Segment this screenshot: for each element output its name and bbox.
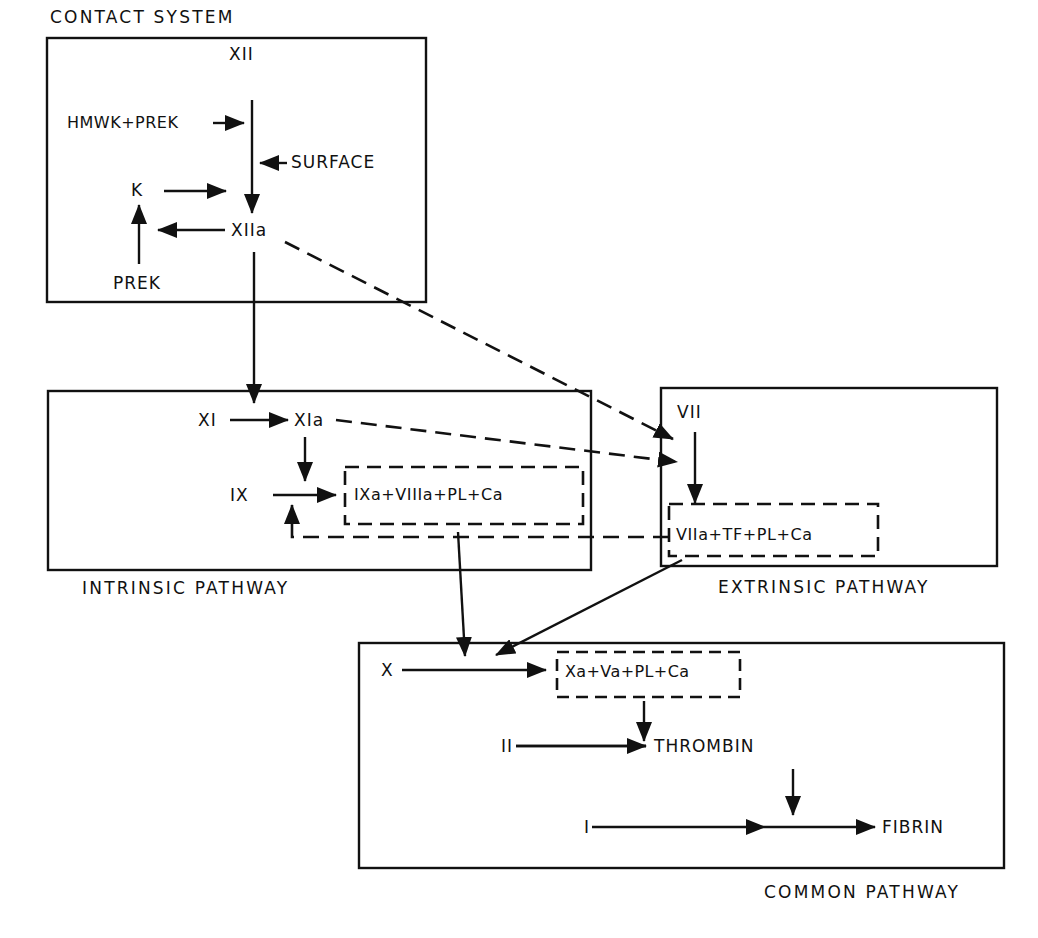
node-ii: II xyxy=(501,738,513,755)
intrinsic-pathway-title: INTRINSIC PATHWAY xyxy=(82,580,289,597)
node-surface: SURFACE xyxy=(291,154,375,171)
node-prek: PREK xyxy=(113,275,161,292)
node-fibrin: FIBRIN xyxy=(882,819,944,836)
cascade-diagram-canvas xyxy=(0,0,1038,938)
node-xi: XI xyxy=(198,412,217,429)
node-viia-complex: VIIa+TF+PL+Ca xyxy=(676,527,813,543)
node-x: X xyxy=(381,662,394,679)
dashed-arrow-xiia-to-vii xyxy=(285,242,673,439)
dashed-arrow-xia-to-vii xyxy=(336,420,677,462)
node-hmwk-prek: HMWK+PREK xyxy=(67,115,178,131)
arrow-ixa-complex-to-x xyxy=(458,532,465,656)
extrinsic-pathway-title: EXTRINSIC PATHWAY xyxy=(718,579,930,596)
node-xa-complex: Xa+Va+PL+Ca xyxy=(565,664,689,680)
node-i: I xyxy=(584,819,590,836)
dashed-arrow-viia-to-ix xyxy=(292,505,669,537)
node-ixa-complex: IXa+VIIIa+PL+Ca xyxy=(354,487,503,503)
node-vii: VII xyxy=(677,404,702,421)
arrow-viia-complex-to-x xyxy=(496,560,682,655)
node-k: K xyxy=(131,182,143,199)
common-pathway-title: COMMON PATHWAY xyxy=(764,884,960,901)
node-ix: IX xyxy=(230,487,249,504)
node-xiia: XIIa xyxy=(231,222,267,239)
contact-system-title: CONTACT SYSTEM xyxy=(50,9,235,26)
node-xia: XIa xyxy=(294,412,324,429)
node-thrombin: THROMBIN xyxy=(654,738,754,755)
node-xii: XII xyxy=(229,46,254,63)
